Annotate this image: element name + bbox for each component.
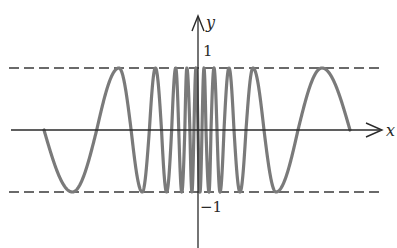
y-tick-label-minus-1: −1 [200,198,222,216]
x-axis-label: x [386,121,395,140]
y-tick-label-1: 1 [203,42,213,60]
y-axis-label: y [205,13,216,32]
function-plot: x y 1 −1 [0,0,397,248]
